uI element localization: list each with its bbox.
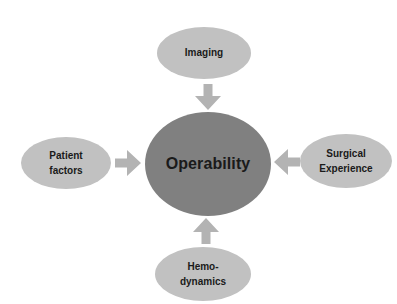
node-patient-factors: Patient factors bbox=[21, 137, 111, 189]
node-hemodynamics: Hemo- dynamics bbox=[155, 247, 251, 301]
arrow-right-icon bbox=[115, 149, 141, 177]
node-hemodynamics-label-line-2: dynamics bbox=[180, 274, 226, 290]
node-imaging: Imaging bbox=[157, 27, 251, 79]
arrow-down-icon bbox=[194, 84, 222, 110]
operability-factors-diagram: Imaging Patient factors Surgical Experie… bbox=[0, 0, 397, 304]
node-surgical-experience: Surgical Experience bbox=[300, 134, 392, 188]
node-hemodynamics-label-line-1: Hemo- bbox=[187, 259, 218, 275]
arrow-up-icon bbox=[192, 218, 220, 244]
hub-operability: Operability bbox=[145, 112, 271, 216]
arrow-left-icon bbox=[274, 148, 300, 176]
node-surgical-experience-label-line-2: Experience bbox=[319, 161, 372, 177]
node-imaging-label-line-1: Imaging bbox=[185, 45, 223, 61]
hub-operability-label: Operability bbox=[166, 155, 251, 173]
node-surgical-experience-label-line-1: Surgical bbox=[326, 146, 365, 162]
node-patient-factors-label-line-1: Patient bbox=[49, 148, 82, 164]
node-patient-factors-label-line-2: factors bbox=[49, 163, 82, 179]
